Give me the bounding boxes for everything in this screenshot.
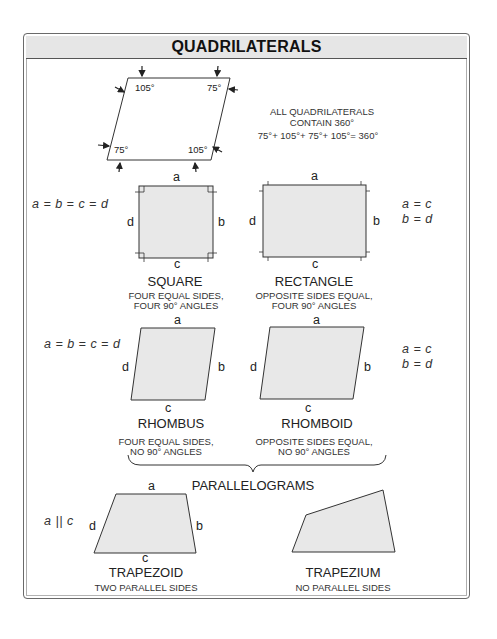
rhombus-shape [131, 328, 215, 400]
rectangle-side-a: a [311, 169, 318, 183]
rhomboid-desc-2: NO 90° ANGLES [278, 447, 350, 457]
square-desc-2: FOUR 90° ANGLES [134, 301, 219, 311]
square-side-d: d [127, 215, 134, 229]
rhombus-name: RHOMBUS [138, 416, 204, 431]
rhombus-side-c: c [165, 401, 171, 415]
square-side-b: b [218, 215, 225, 229]
rhomboid-side-a: a [313, 313, 320, 327]
parallelograms-label: PARALLELOGRAMS [192, 478, 315, 493]
row1-right-equation-1: a = c [402, 197, 432, 211]
square-name: SQUARE [148, 274, 203, 289]
trapezium-name: TRAPEZIUM [305, 565, 380, 580]
row1-left-equation: a = b = c = d [32, 197, 108, 211]
parallelograms-brace [128, 455, 386, 472]
rectangle-name: RECTANGLE [275, 274, 354, 289]
rhombus-side-a: a [174, 313, 181, 327]
trapezoid-shape [94, 494, 196, 553]
rhomboid-side-b: b [364, 360, 371, 374]
rhomboid-side-d: d [250, 360, 257, 374]
trapezium-desc: NO PARALLEL SIDES [295, 583, 390, 593]
angle-label-bottom-right: 105° [188, 144, 208, 155]
intro-note-line2: CONTAIN 360° [290, 117, 354, 128]
rectangle-shape [263, 185, 366, 257]
trapezoid-name: TRAPEZOID [109, 565, 183, 580]
trapezoid-side-c: c [142, 551, 148, 565]
trapezoid-side-a: a [148, 479, 155, 493]
rectangle-side-d: d [249, 214, 256, 228]
row2-right-equation-2: b = d [402, 357, 433, 371]
rectangle-side-c: c [312, 257, 318, 271]
rhombus-desc-2: NO 90° ANGLES [130, 447, 202, 457]
row2-right-equation-1: a = c [402, 342, 432, 356]
rhombus-side-b: b [218, 360, 225, 374]
row2-left-equation: a = b = c = d [44, 337, 120, 351]
intro-equation: 75°+ 105°+ 75°+ 105°= 360° [258, 130, 378, 141]
rhomboid-side-c: c [305, 401, 311, 415]
trapezoid-side-d: d [89, 519, 96, 533]
rectangle-desc-2: FOUR 90° ANGLES [272, 301, 357, 311]
rhombus-side-d: d [122, 360, 129, 374]
angle-label-bottom-left: 75° [114, 144, 128, 155]
row1-right-equation-2: b = d [402, 212, 433, 226]
trapezium-shape [292, 490, 395, 552]
angle-label-top-left: 105° [135, 82, 155, 93]
square-side-a: a [173, 170, 180, 184]
trapezoid-side-b: b [196, 519, 203, 533]
rectangle-side-b: b [373, 214, 380, 228]
rhomboid-name: RHOMBOID [281, 416, 353, 431]
intro-note-line1: ALL QUADRILATERALS [270, 106, 374, 117]
angle-label-top-right: 75° [207, 82, 221, 93]
rhomboid-shape [260, 327, 364, 399]
square-side-c: c [174, 257, 180, 271]
shapes-canvas [0, 0, 497, 639]
square-shape [139, 186, 213, 258]
row3-left-equation: a || c [44, 514, 74, 528]
trapezoid-desc: TWO PARALLEL SIDES [95, 583, 198, 593]
